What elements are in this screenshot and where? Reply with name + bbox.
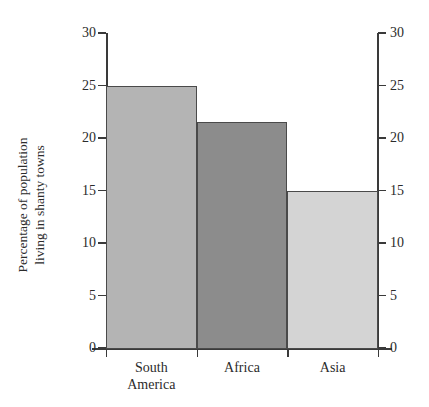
x-axis-tick: [197, 349, 198, 357]
y-axis-left-tick: [98, 347, 106, 348]
x-axis-tick: [106, 349, 107, 357]
y-axis-right-tick: [378, 32, 386, 33]
bar-africa: [197, 122, 288, 349]
y-axis-right-tick-label: 0: [390, 341, 429, 355]
y-axis-right-tick: [378, 242, 386, 243]
y-axis-title-line-1: Percentage of population: [14, 90, 31, 320]
y-axis-left-tick: [98, 85, 106, 86]
y-axis-right-tick: [378, 190, 386, 191]
x-axis-label: Africa: [197, 360, 288, 377]
y-axis-right-tick-label: 15: [390, 184, 429, 198]
y-axis-right-tick-label: 10: [390, 236, 429, 250]
y-axis-left-tick-label: 30: [56, 26, 96, 40]
x-axis-label-line: South: [106, 360, 197, 377]
y-axis-title-line-2: living in shanty towns: [31, 90, 48, 320]
y-axis-left-tick: [98, 242, 106, 243]
y-axis-right-tick: [378, 85, 386, 86]
bar-chart: Percentage of population living in shant…: [0, 0, 429, 407]
y-axis-right-tick: [378, 295, 386, 296]
y-axis-left-tick-label: 25: [56, 79, 96, 93]
x-axis-label: Asia: [287, 360, 378, 377]
chart-title: [0, 0, 429, 2]
y-axis-left-tick-label: 15: [56, 184, 96, 198]
y-axis-right-tick-label: 20: [390, 131, 429, 145]
x-axis-tick: [287, 349, 288, 357]
x-axis-tick: [378, 349, 379, 357]
y-axis-left-tick-label: 20: [56, 131, 96, 145]
y-axis-right-tick-label: 5: [390, 289, 429, 303]
x-axis-label: SouthAmerica: [106, 360, 197, 393]
y-axis-title: Percentage of population living in shant…: [14, 90, 50, 320]
y-axis-left-tick: [98, 32, 106, 33]
x-axis-label-line: Asia: [287, 360, 378, 377]
y-axis-right-tick-label: 30: [390, 26, 429, 40]
y-axis-left-tick: [98, 190, 106, 191]
y-axis-left-tick-label: 10: [56, 236, 96, 250]
y-axis-left-tick: [98, 295, 106, 296]
y-axis-right-tick: [378, 137, 386, 138]
bar-asia: [287, 191, 378, 350]
y-axis-left-tick-label: 0: [56, 341, 96, 355]
y-axis-left-tick-label: 5: [56, 289, 96, 303]
x-axis-label-line: America: [106, 377, 197, 394]
y-axis-right-tick-label: 25: [390, 79, 429, 93]
y-axis-left-tick: [98, 137, 106, 138]
bar-south-america: [106, 86, 197, 350]
x-axis-label-line: Africa: [197, 360, 288, 377]
